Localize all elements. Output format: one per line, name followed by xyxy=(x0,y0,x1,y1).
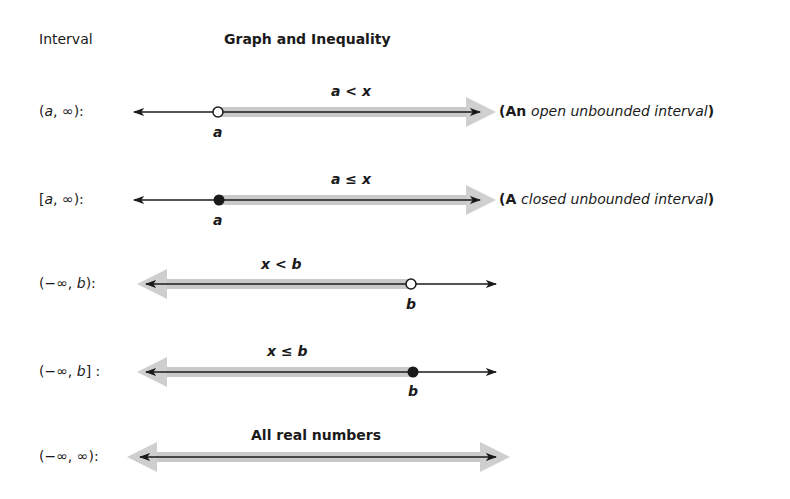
endpoint-label-row-1: a xyxy=(213,124,222,140)
interval-notation-row-4: (−∞, b] : xyxy=(39,363,100,379)
closed-endpoint-icon xyxy=(408,367,419,378)
interval-notation-row-5: (−∞, ∞): xyxy=(39,448,99,464)
number-line-graphics xyxy=(0,0,790,499)
inequality-row-3: x < b xyxy=(261,256,302,272)
number-line-row-4 xyxy=(137,357,496,387)
interval-notation-row-1: (a, ∞): xyxy=(39,103,84,119)
endpoint-label-row-4: b xyxy=(408,383,418,399)
interval-notation-row-2: [a, ∞): xyxy=(39,191,84,207)
interval-description-row-1: (An open unbounded interval) xyxy=(499,103,714,119)
number-line-row-2 xyxy=(134,185,496,215)
interval-notation-row-3: (−∞, b): xyxy=(39,275,96,291)
number-line-row-1 xyxy=(134,97,496,127)
inequality-row-1: a < x xyxy=(331,83,371,99)
open-endpoint-icon xyxy=(213,107,223,117)
inequality-row-2: a ≤ x xyxy=(331,171,371,187)
endpoint-label-row-3: b xyxy=(406,296,416,312)
closed-endpoint-icon xyxy=(214,195,225,206)
open-endpoint-icon xyxy=(406,279,416,289)
endpoint-label-row-2: a xyxy=(213,212,222,228)
inequality-row-5: All real numbers xyxy=(251,427,381,443)
number-line-row-5 xyxy=(127,442,510,472)
number-line-row-3 xyxy=(137,269,496,299)
inequality-row-4: x ≤ b xyxy=(267,343,308,359)
interval-description-row-2: (A closed unbounded interval) xyxy=(499,191,714,207)
